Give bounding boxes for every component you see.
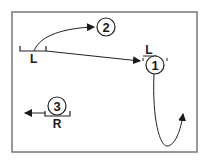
- arrow-to-player-2: [34, 27, 94, 51]
- player-2-label: 2: [102, 20, 109, 35]
- player-1-position-label: L: [145, 43, 152, 57]
- marker-label-L: L: [30, 52, 37, 66]
- loop-arrow-from-player-1: [154, 74, 183, 146]
- player-3: 3 R: [45, 97, 70, 131]
- player-1: L 1: [143, 43, 167, 74]
- arrow-to-player-1: [46, 51, 140, 61]
- player-3-label: 3: [53, 99, 60, 114]
- player-2: 2: [97, 18, 115, 36]
- player-3-position-label: R: [53, 117, 62, 131]
- start-marker-L: L: [20, 46, 46, 66]
- player-1-label: 1: [151, 58, 158, 73]
- play-diagram: L 2 L 1 3 R: [0, 0, 208, 161]
